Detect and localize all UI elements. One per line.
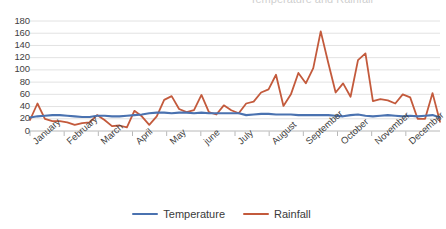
legend-swatch-temperature	[132, 213, 158, 216]
legend-swatch-rainfall	[243, 213, 269, 216]
x-axis-tick-label: October	[339, 117, 370, 147]
chart-legend: Temperature Rainfall	[0, 204, 443, 224]
x-axis-tick-label: September	[304, 109, 345, 147]
legend-item-temperature[interactable]: Temperature	[132, 208, 225, 220]
x-axis-tick-label: December	[407, 110, 446, 146]
x-axis-tick-label: February	[65, 114, 99, 146]
legend-label-temperature: Temperature	[163, 208, 225, 220]
x-axis-tick-label: November	[373, 110, 412, 146]
x-axis-tick-label: june	[202, 127, 222, 146]
x-axis-tick-label: May	[168, 127, 188, 146]
x-axis-tick-label: January	[31, 117, 62, 147]
x-axis-tick-label: August	[270, 120, 298, 147]
x-axis-tick-label: July	[236, 128, 255, 146]
legend-label-rainfall: Rainfall	[274, 208, 311, 220]
legend-item-rainfall[interactable]: Rainfall	[243, 208, 311, 220]
x-axis-tick-label: March	[99, 122, 125, 147]
x-axis-tick-label: April	[134, 127, 154, 147]
